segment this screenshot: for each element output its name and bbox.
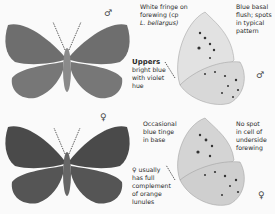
male-underside-symbol: ♂ (256, 70, 264, 80)
male-upperside-butterfly (5, 22, 129, 98)
female-symbol: ♀ (100, 112, 107, 122)
male-symbol: ♂ (104, 8, 112, 18)
uppers-annotation: Uppers bright blue with violet hue (132, 58, 166, 90)
nospot-annotation: No spot in cell of underside forewing (236, 120, 267, 152)
fringe-annotation: White fringe on forewing (cp L. bellargu… (140, 3, 188, 27)
tinge-annotation: Occasional blue tinge in base (143, 120, 177, 144)
female-underside-symbol: ♀ (258, 190, 265, 200)
basal-annotation: Blue basal flush; spots in typical patte… (236, 3, 272, 35)
lunules-annotation: ♀ usually has full complement of orange … (132, 166, 171, 206)
female-underside-butterfly (166, 118, 244, 205)
female-upperside-butterfly (5, 126, 129, 203)
